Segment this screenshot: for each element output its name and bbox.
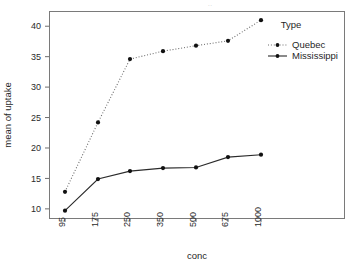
legend-label-quebec: Quebec xyxy=(292,39,326,50)
series-point-quebec xyxy=(63,190,67,194)
series-point-mississippi xyxy=(161,166,165,170)
series-point-quebec xyxy=(96,120,100,124)
series-point-mississippi xyxy=(226,155,230,159)
chart-canvas: .. 10152025303540 951752503505006751000 … xyxy=(0,0,355,263)
series-point-quebec xyxy=(259,18,263,22)
x-tick-label: 95 xyxy=(57,217,67,227)
series-point-mississippi xyxy=(128,169,132,173)
interaction-plot-chart: .. 10152025303540 951752503505006751000 … xyxy=(0,0,355,263)
x-axis: 951752503505006751000 xyxy=(57,207,263,227)
x-axis-title: conc xyxy=(187,250,207,261)
legend-title: Type xyxy=(281,19,302,30)
series-point-quebec xyxy=(226,39,230,43)
series-point-mississippi xyxy=(63,209,67,213)
y-tick-label: 40 xyxy=(31,21,41,31)
y-tick-label: 10 xyxy=(31,204,41,214)
x-tick-label: 350 xyxy=(155,212,165,227)
legend-marker-mississippi xyxy=(276,54,280,58)
series-point-mississippi xyxy=(194,165,198,169)
series-point-mississippi xyxy=(96,177,100,181)
x-tick-label: 250 xyxy=(122,212,132,227)
clipped-top-title: .. xyxy=(208,0,212,8)
y-tick-label: 25 xyxy=(31,113,41,123)
series-point-quebec xyxy=(194,44,198,48)
series-point-mississippi xyxy=(259,153,263,157)
chart-legend: Type QuebecMississippi xyxy=(268,19,338,61)
series-point-quebec xyxy=(128,57,132,61)
x-tick-label: 675 xyxy=(220,212,230,227)
y-tick-label: 30 xyxy=(31,82,41,92)
x-tick-label: 500 xyxy=(188,212,198,227)
x-tick-label: 175 xyxy=(90,212,100,227)
data-series-group xyxy=(63,18,263,213)
legend-label-mississippi: Mississippi xyxy=(292,50,338,61)
legend-marker-quebec xyxy=(276,43,280,47)
y-tick-label: 15 xyxy=(31,174,41,184)
y-axis: 10152025303540 xyxy=(31,21,49,214)
series-point-quebec xyxy=(161,49,165,53)
y-tick-label: 20 xyxy=(31,143,41,153)
series-line-mississippi xyxy=(65,155,261,211)
x-tick-label: 1000 xyxy=(253,207,263,227)
y-axis-title: mean of uptake xyxy=(2,82,13,148)
y-tick-label: 35 xyxy=(31,52,41,62)
